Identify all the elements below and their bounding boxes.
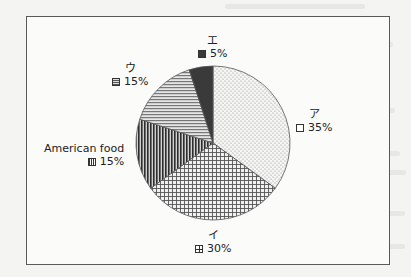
slice-label-u: ウ 15%: [112, 62, 148, 88]
legend-key-solid-icon: [198, 50, 206, 58]
slice-value: 5%: [210, 47, 227, 60]
slice-category: イ: [195, 229, 231, 242]
slice-value: 15%: [124, 75, 148, 88]
slice-category: ア: [296, 108, 332, 121]
legend-key-vertical-lines-icon: [88, 158, 96, 166]
slice-label-a: ア 35%: [296, 108, 332, 134]
slice-value: 15%: [100, 155, 124, 168]
slice-label-american-food: American food 15%: [44, 142, 124, 168]
slice-label-i: イ 30%: [195, 229, 231, 255]
slice-category: ウ: [112, 62, 148, 75]
legend-key-grid-icon: [195, 245, 203, 253]
slice-category: エ: [198, 34, 227, 47]
slice-category: American food: [44, 142, 124, 155]
slice-value: 30%: [207, 242, 231, 255]
slice-value: 35%: [308, 121, 332, 134]
legend-key-dots-icon: [296, 124, 304, 132]
legend-key-horizontal-lines-icon: [112, 78, 120, 86]
slice-label-e: エ 5%: [198, 34, 227, 60]
